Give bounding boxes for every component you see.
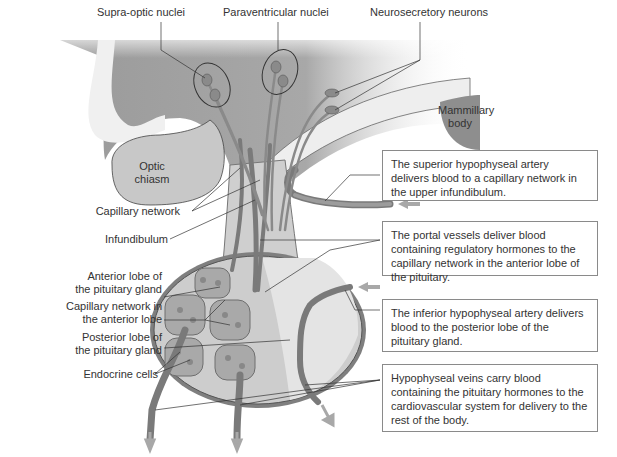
label-posterior-lobe: Posterior lobe of the pituitary gland xyxy=(75,331,162,357)
label-capillary-network: Capillary network xyxy=(96,205,180,218)
label-neurosecretory-neurons: Neurosecretory neurons xyxy=(370,6,488,19)
label-anterior-lobe-line2: the pituitary gland xyxy=(75,283,162,296)
callout-portal-vessels: The portal vessels deliver blood contain… xyxy=(382,221,598,276)
label-paraventricular-nuclei: Paraventricular nuclei xyxy=(223,6,329,19)
label-capillary-anterior-line1: Capillary network in xyxy=(66,300,162,313)
callout-hypophyseal-veins: Hypophyseal veins carry blood containing… xyxy=(382,364,598,432)
label-capillary-network-anterior: Capillary network in the anterior lobe xyxy=(66,300,162,326)
label-anterior-lobe-line1: Anterior lobe of xyxy=(75,270,162,283)
label-supra-optic-nuclei: Supra-optic nuclei xyxy=(97,6,185,19)
callout-inferior-hypophyseal-artery: The inferior hypophyseal artery delivers… xyxy=(382,299,598,352)
label-posterior-lobe-line1: Posterior lobe of xyxy=(75,331,162,344)
label-optic-chiasm: Optic chiasm xyxy=(130,160,174,186)
label-capillary-anterior-line2: the anterior lobe xyxy=(66,313,162,326)
label-posterior-lobe-line2: the pituitary gland xyxy=(75,344,162,357)
label-endocrine-cells: Endocrine cells xyxy=(83,368,158,381)
label-anterior-lobe: Anterior lobe of the pituitary gland xyxy=(75,270,162,296)
callout-superior-hypophyseal-artery: The superior hypophyseal artery delivers… xyxy=(382,150,598,201)
label-infundibulum: Infundibulum xyxy=(105,233,168,246)
label-mammillary-body: Mammillary body xyxy=(438,104,482,130)
